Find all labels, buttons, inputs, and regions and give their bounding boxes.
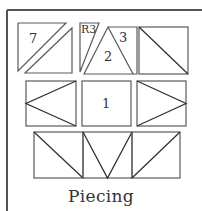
block-r1-b1: 7 [18,23,72,73]
diagonal-line [132,132,180,178]
geese-lines [26,81,76,126]
rect-outline [26,81,76,126]
label-2: 2 [104,49,112,64]
label-3: 3 [119,30,127,45]
label-1: 1 [102,96,110,111]
geese-lines [137,81,186,126]
block-r1-b2: R3 2 3 [80,23,137,74]
block-r3-b3 [132,132,180,178]
block-r1-b3 [139,27,188,74]
block-r2-b2: 1 [82,81,131,126]
rect-outline [83,132,132,178]
block-r2-b1 [26,81,76,126]
diagram-caption: Piecing [0,186,202,206]
block-r3-b2 [83,132,132,178]
piecing-diagram: 7 R3 2 3 1 [0,0,202,211]
label-7: 7 [29,31,37,46]
diagonal-line [34,132,83,178]
diagonal-line [139,27,188,74]
rect-outline [137,81,186,126]
label-r3: R3 [81,23,96,36]
v-lines [83,132,132,178]
piece-7 [18,23,66,71]
block-r3-b1 [34,132,83,178]
block-r2-b3 [137,81,186,126]
